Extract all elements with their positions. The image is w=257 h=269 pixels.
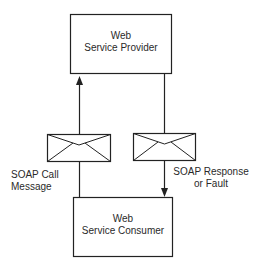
envelope-icon (134, 134, 196, 161)
soap-call-label: SOAP Call Message (11, 169, 59, 193)
provider-label-line2: Service Provider (70, 42, 172, 54)
provider-label: Web Service Provider (70, 30, 172, 54)
consumer-label-line1: Web (73, 213, 173, 225)
consumer-label-line2: Service Consumer (73, 225, 173, 237)
soap-response-label-line2: or Fault (172, 178, 250, 190)
soap-response-label-line1: SOAP Response (172, 166, 250, 178)
soap-response-label: SOAP Response or Fault (172, 166, 250, 190)
envelope-icon (48, 135, 111, 162)
soap-call-label-line2: Message (11, 181, 59, 193)
arrowhead-up-icon (76, 76, 83, 85)
provider-label-line1: Web (70, 30, 172, 42)
soap-call-label-line1: SOAP Call (11, 169, 59, 181)
consumer-label: Web Service Consumer (73, 213, 173, 237)
arrowhead-down-icon (161, 188, 168, 197)
